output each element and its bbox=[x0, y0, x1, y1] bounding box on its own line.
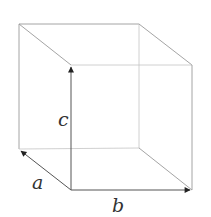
front-face bbox=[71, 65, 192, 190]
label-a: a bbox=[32, 171, 43, 193]
depth-edges bbox=[19, 24, 192, 190]
vector-a-arrow bbox=[21, 151, 71, 190]
label-c: c bbox=[58, 108, 69, 130]
vectors bbox=[21, 67, 190, 190]
edge-back-bottom bbox=[19, 148, 139, 149]
label-b: b bbox=[112, 194, 124, 216]
edge-depth-top-left bbox=[19, 24, 71, 65]
back-face bbox=[19, 24, 139, 149]
edge-depth-bottom-right bbox=[139, 148, 192, 190]
cube-diagram: a b c bbox=[0, 0, 211, 217]
edge-depth-top-right bbox=[139, 24, 192, 65]
